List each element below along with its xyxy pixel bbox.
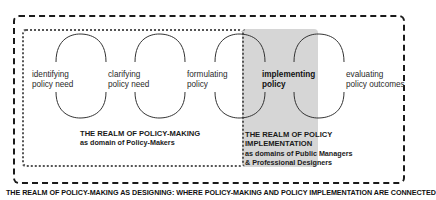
stage-clarifying-policy-need: clarifying policy need bbox=[108, 70, 149, 90]
stage-label-line2: policy bbox=[262, 80, 315, 90]
loop-1-bottom-arc bbox=[56, 92, 106, 118]
stage-label-line2: policy bbox=[187, 80, 228, 90]
stage-label-line2: policy need bbox=[108, 80, 149, 90]
loop-3-top-arc bbox=[215, 34, 265, 62]
stage-label-line2: policy outcomes bbox=[346, 80, 405, 90]
stage-formulating-policy: formulating policy bbox=[187, 70, 228, 90]
stage-label-line2: policy need bbox=[32, 80, 73, 90]
realm-implementation-subtitle-line1: as domains of Public Managers bbox=[245, 149, 352, 158]
realm-policy-implementation-caption: THE REALM OF POLICY IMPLEMENTATION as do… bbox=[245, 130, 352, 168]
loop-2-top-arc bbox=[135, 34, 185, 62]
stage-label-line1: implementing bbox=[262, 70, 315, 80]
stage-implementing-policy: implementing policy bbox=[262, 70, 315, 90]
realm-policy-making-subtitle: as domain of Policy-Makers bbox=[80, 138, 200, 147]
stage-label-line1: clarifying bbox=[108, 70, 149, 80]
loop-3-bottom-arc bbox=[215, 92, 265, 118]
realm-implementation-title-line2: IMPLEMENTATION bbox=[245, 139, 352, 148]
footer-caption: THE REALM OF POLICY-MAKING AS DESIGNING:… bbox=[6, 188, 436, 197]
stage-evaluating-policy-outcomes: evaluating policy outcomes bbox=[346, 70, 405, 90]
loop-2-bottom-arc bbox=[135, 92, 185, 118]
loop-4-bottom-arc bbox=[294, 92, 344, 118]
realm-implementation-title-line1: THE REALM OF POLICY bbox=[245, 130, 352, 139]
realm-policy-making-caption: THE REALM OF POLICY-MAKING as domain of … bbox=[80, 129, 200, 148]
stage-label-line1: formulating bbox=[187, 70, 228, 80]
stage-label-line1: evaluating bbox=[346, 70, 405, 80]
loop-4-top-arc bbox=[294, 34, 344, 62]
loop-1-top-arc bbox=[56, 34, 106, 62]
realm-implementation-subtitle-line2: & Professional Designers bbox=[245, 158, 352, 167]
realm-policy-making-title: THE REALM OF POLICY-MAKING bbox=[80, 129, 200, 138]
stage-label-line1: identifying bbox=[32, 70, 73, 80]
stage-identifying-policy-need: identifying policy need bbox=[32, 70, 73, 90]
